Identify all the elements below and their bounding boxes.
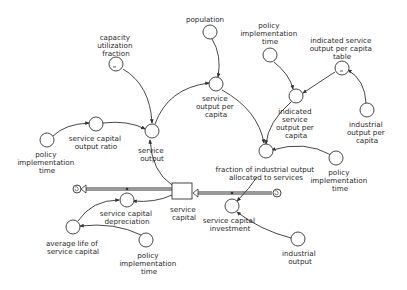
aux-policy-implementation-time-right[interactable]: policy implementation time [310,151,369,193]
label-industrial-output: industrial output [282,249,318,266]
aux-policy-implementation-time-left[interactable]: policy implementation time [17,133,76,175]
label-policy-implementation-time-right: policy implementation time [310,168,369,193]
label-service-capital-investment: service capital investment [203,216,257,233]
aux-service-output[interactable]: service output [138,124,166,163]
aux-fioas[interactable]: fraction of industrial output allocated … [216,144,317,182]
aux-population[interactable]: population [186,15,224,39]
label-service-output: service output [138,146,166,163]
label-policy-implementation-time-left: policy implementation time [17,150,76,175]
aux-policy-implementation-time-bottom[interactable]: policy implementation time [119,233,178,276]
label-service-capital: service capital [170,205,198,222]
aux-indicated-sopc[interactable]: indicated service output per capita [276,89,316,140]
label-indicated-sopc: indicated service output per capita [276,107,316,140]
label-service-capital-output-ratio: service capital output ratio [69,134,123,151]
cloud-source-left-icon [73,185,81,193]
service-capital-stock[interactable] [172,183,192,199]
label-service-output-per-capita: service output per capita [196,94,236,119]
aux-indicated-sopc-table[interactable]: indicated service output per capita tabl… [310,36,375,75]
label-average-life-service-capital: average life of service capital [46,239,100,256]
aux-service-output-per-capita[interactable]: service output per capita [196,77,236,119]
flow-service-capital-investment[interactable]: service capital investment [203,199,257,233]
label-policy-implementation-time-bottom: policy implementation time [119,251,178,276]
cloud-source-right-icon [273,189,281,197]
label-capacity-utilization-fraction: capacity utilization fraction [97,33,135,58]
aux-industrial-output-per-capita[interactable]: industrial output per capita [347,103,387,145]
label-indicated-sopc-table: indicated service output per capita tabl… [310,36,375,61]
label-industrial-output-per-capita: industrial output per capita [347,120,387,145]
label-fioas: fraction of industrial output allocated … [216,165,317,182]
investment-valve-icon [231,192,234,195]
aux-capacity-utilization-fraction[interactable]: capacity utilization fraction [97,33,135,71]
label-policy-implementation-time-top: policy implementation time [240,21,299,46]
aux-policy-implementation-time-top[interactable]: policy implementation time [240,21,299,62]
depreciation-valve-icon [126,188,129,191]
label-population: population [186,15,224,24]
label-service-capital-depreciation: service capital depreciation [100,209,154,226]
stock-flow-diagram: capacity utilization fraction population… [0,0,407,290]
flow-service-capital-depreciation[interactable]: service capital depreciation [100,193,154,226]
